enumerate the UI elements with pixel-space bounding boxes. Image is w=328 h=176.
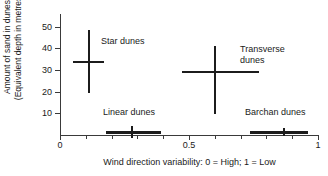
- y-axis-title-line2: (Equivalent depth in metres): [13, 0, 24, 109]
- y-tick-20: [55, 92, 60, 93]
- x-tick-minor-0-6: [215, 136, 216, 139]
- x-tick-minor-0-1: [86, 136, 87, 139]
- x-tick-label-0-5: 0.5: [183, 141, 196, 150]
- y-axis-title-line1: Amount of sand in dunes: [2, 0, 13, 109]
- point-label-barchan-dunes: Barchan dunes: [245, 107, 306, 118]
- transverse-dunes-yerror-bar: [214, 46, 216, 114]
- x-tick-minor-0-8: [266, 136, 267, 139]
- dune-scatter-chart: 50 40 30 20 10 0 0.5 1 Amount of sand in…: [0, 0, 328, 176]
- y-tick-label-30: 30: [28, 66, 52, 75]
- y-tick-label-50: 50: [28, 23, 52, 32]
- y-tick-label-10: 10: [28, 109, 52, 118]
- y-tick-40: [55, 48, 60, 49]
- point-label-transverse-dunes-line2: dunes: [240, 55, 265, 66]
- linear-dunes-xerror-bar: [106, 131, 161, 134]
- y-tick-label-40: 40: [28, 44, 52, 53]
- x-tick-minor-0-7: [241, 136, 242, 139]
- point-label-star-dunes: Star dunes: [101, 36, 145, 47]
- transverse-dunes-xerror-bar: [182, 71, 259, 73]
- x-axis-title: Wind direction variability: 0 = High; 1 …: [60, 157, 319, 168]
- star-dunes-xerror-bar: [73, 61, 104, 63]
- x-tick-minor-0-9: [292, 136, 293, 139]
- barchan-dunes-xerror-bar: [250, 131, 308, 134]
- y-tick-label-20: 20: [28, 88, 52, 97]
- point-label-transverse-dunes-line1: Transverse: [240, 44, 285, 55]
- y-tick-30: [55, 70, 60, 71]
- y-axis-title: Amount of sand in dunes (Equivalent dept…: [2, 0, 24, 109]
- x-tick-label-0: 0: [57, 141, 62, 150]
- x-tick-minor-0-4: [163, 136, 164, 139]
- point-label-linear-dunes: Linear dunes: [103, 107, 155, 118]
- x-tick-minor-0-3: [137, 136, 138, 139]
- x-tick-minor-0-2: [112, 136, 113, 139]
- x-tick-label-1: 1: [315, 141, 320, 150]
- y-tick-10: [55, 113, 60, 114]
- y-tick-50: [55, 27, 60, 28]
- y-axis-line: [60, 14, 61, 136]
